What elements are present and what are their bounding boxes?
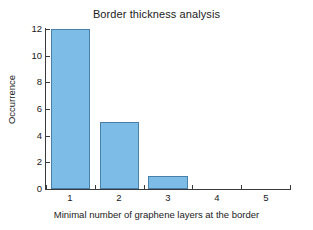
y-tick-label: 4 <box>16 131 42 140</box>
y-tick-label: 2 <box>16 157 42 166</box>
x-tick-label: 2 <box>109 192 129 203</box>
y-tick-label: 10 <box>16 51 42 60</box>
y-tick-label: 0 <box>16 184 42 193</box>
plot-area <box>46 29 290 189</box>
x-tick-label: 1 <box>60 192 80 203</box>
x-tick-label: 3 <box>158 192 178 203</box>
y-tick-mark <box>46 189 50 190</box>
x-tick-label: 4 <box>207 192 227 203</box>
x-tick-mark <box>290 185 291 189</box>
chart-title: Border thickness analysis <box>0 8 313 20</box>
chart-figure: Border thickness analysis 024681012 1234… <box>0 0 313 230</box>
bar <box>100 122 139 189</box>
y-axis-label: Occurrence <box>6 55 17 145</box>
x-tick-label: 5 <box>256 192 276 203</box>
y-tick-label: 8 <box>16 77 42 86</box>
y-tick-label: 6 <box>16 104 42 113</box>
x-axis-spine <box>45 189 291 190</box>
x-axis-label: Minimal number of graphene layers at the… <box>0 209 313 220</box>
y-tick-label: 12 <box>16 24 42 33</box>
bar-series <box>46 29 290 189</box>
bar <box>148 176 187 189</box>
bar <box>51 29 90 189</box>
